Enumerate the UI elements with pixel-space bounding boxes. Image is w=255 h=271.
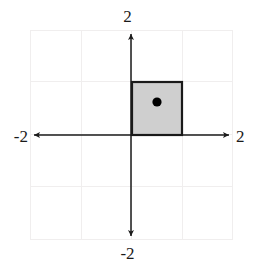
coordinate-plane-figure: 2 -2 -2 2: [0, 0, 255, 271]
plot-canvas: [0, 0, 255, 271]
x-axis-max-label: 2: [236, 128, 255, 145]
x-axis-min-label: -2: [2, 128, 28, 145]
center-dot: [152, 97, 161, 106]
y-axis-min-label: -2: [0, 245, 255, 262]
y-axis-max-label: 2: [0, 8, 255, 25]
shaded-square: [132, 82, 182, 135]
